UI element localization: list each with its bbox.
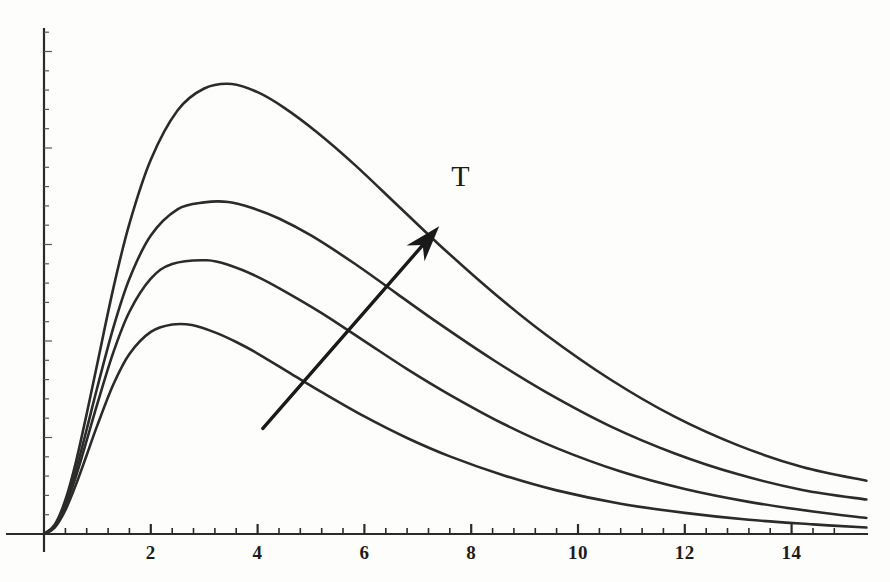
spectrum-curve [44, 324, 866, 534]
x-tick-label: 2 [146, 542, 156, 564]
temperature-label: T [451, 159, 469, 193]
blackbody-spectrum-figure: 2468101214 T [0, 0, 890, 582]
spectrum-curve [44, 260, 866, 534]
x-tick-label: 14 [782, 542, 802, 564]
spectrum-curve [44, 201, 866, 534]
x-tick-label: 6 [359, 542, 369, 564]
spectrum-curves-group [44, 84, 866, 534]
x-axis-ticks [65, 524, 834, 534]
x-tick-label: 10 [568, 542, 588, 564]
x-tick-label: 8 [466, 542, 476, 564]
spectrum-curve [44, 84, 866, 534]
plot-area [0, 0, 890, 582]
arrow-shaft-line [263, 243, 425, 429]
temperature-arrow [263, 226, 439, 428]
x-tick-label: 12 [675, 542, 695, 564]
y-axis-ticks [44, 32, 52, 515]
x-tick-label: 4 [253, 542, 263, 564]
